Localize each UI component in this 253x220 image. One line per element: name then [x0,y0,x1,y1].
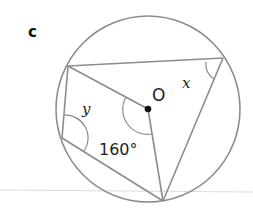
chord-left [62,66,68,138]
chord-right [163,58,223,201]
center-label: O [152,85,165,105]
central-angle-label: 160° [99,140,138,159]
angle-y-label: y [81,100,91,118]
part-label: c [28,23,37,41]
angle-x-label: x [182,74,191,92]
radius-to-top-left [68,66,148,109]
circle-theorem-diagram: c O x y 160° [0,0,253,220]
center-point-dot [145,106,152,113]
chord-top [68,58,223,66]
angle-arc-x [206,62,214,79]
page-rule-line [0,190,253,192]
radius-to-bottom [148,109,163,201]
angle-arc-y [64,115,88,151]
